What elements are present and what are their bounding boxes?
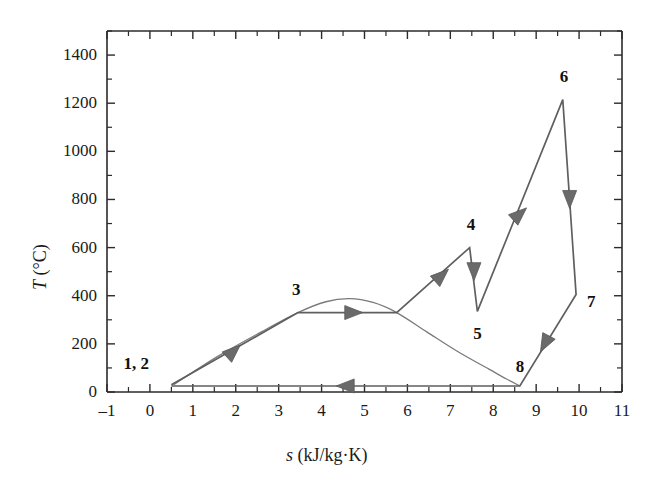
x-tick-label: 10: [559, 401, 599, 421]
y-tick-label: 0: [45, 382, 97, 402]
y-tick-label: 200: [45, 334, 97, 354]
state-point-label: 3: [292, 280, 301, 300]
y-tick-label: 1200: [45, 93, 97, 113]
x-tick-label: 2: [216, 401, 256, 421]
x-tick-label: 6: [387, 401, 427, 421]
state-point-label: 1, 2: [123, 354, 149, 374]
x-axis-unit: (kJ/kg·K): [293, 445, 368, 465]
x-axis-symbol: s: [286, 445, 293, 465]
state-point-label: 6: [560, 67, 569, 87]
x-tick-label: 3: [259, 401, 299, 421]
direction-arrow: [563, 190, 577, 208]
direction-arrow: [534, 333, 555, 355]
state-point-label: 8: [516, 357, 525, 377]
direction-arrow: [336, 379, 354, 393]
x-axis-title: s (kJ/kg·K): [286, 445, 368, 466]
y-tick-label: 400: [45, 286, 97, 306]
direction-arrow: [345, 306, 363, 320]
state-point-label: 4: [467, 215, 476, 235]
cycle-process-path: [171, 100, 576, 386]
x-tick-label: 5: [345, 401, 385, 421]
x-tick-label: 11: [602, 401, 642, 421]
direction-arrow: [430, 264, 453, 286]
y-tick-label: 1000: [45, 141, 97, 161]
x-tick-label: 7: [430, 401, 470, 421]
x-tick-label: 8: [473, 401, 513, 421]
y-tick-label: 600: [45, 238, 97, 258]
state-point-label: 7: [587, 292, 596, 312]
x-tick-label: 4: [302, 401, 342, 421]
x-tick-label: 9: [516, 401, 556, 421]
y-tick-label: 1400: [45, 45, 97, 65]
y-tick-label: 800: [45, 189, 97, 209]
x-tick-label: 0: [130, 401, 170, 421]
state-point-label: 5: [473, 324, 482, 344]
direction-arrow: [467, 263, 481, 281]
x-tick-label: 1: [173, 401, 213, 421]
x-tick-label: –1: [87, 401, 127, 421]
